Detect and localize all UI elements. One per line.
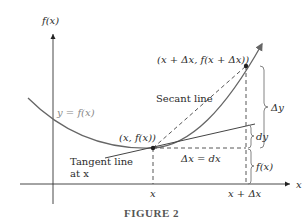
point1-label: (x, f(x)) [119,132,156,143]
x-plus-dx-tick-label: x + Δx [228,188,262,199]
fx-brace [248,149,254,184]
point2-label: (x + Δx, f(x + Δx)) [157,54,249,65]
tangent-label-line1: Tangent line [70,156,133,167]
fx-label: f(x) [255,161,273,172]
delta-x-label: Δx = dx [180,153,221,164]
dy-label: dy [256,131,268,142]
y-axis-label: f(x) [41,15,59,26]
tangent-label-line2: at x [70,168,89,179]
figure-caption: FIGURE 2 [124,207,179,219]
x-axis-label: x [296,179,302,190]
point-x-fx [151,146,155,150]
secant-label: Secant line [156,93,213,104]
dy-brace [248,125,254,148]
derivative-differential-diagram: f(x) x x x + Δx y = f(x) Secant line Tan… [0,0,308,222]
secant-line [153,66,246,148]
x-tick-label: x [150,188,156,199]
delta-y-label: Δy [270,102,284,113]
curve-label: y = f(x) [56,107,95,118]
